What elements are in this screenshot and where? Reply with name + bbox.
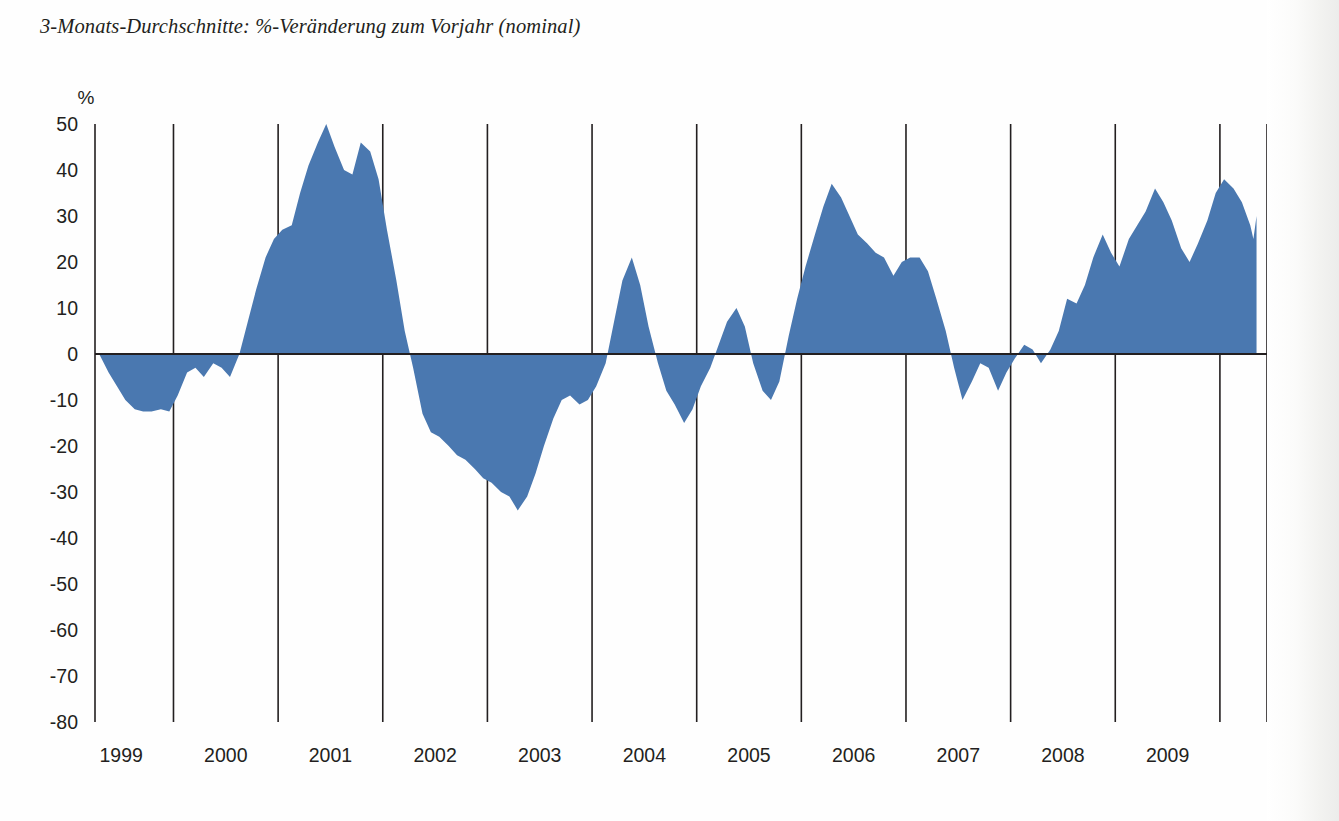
x-tick-label: 2005 (727, 744, 771, 766)
x-tick-label: 2003 (518, 744, 561, 766)
x-tick-label: 2002 (413, 744, 456, 766)
x-tick-label: 2007 (937, 744, 980, 766)
x-tick-label: 2008 (1041, 744, 1084, 766)
y-tick-label: 0 (67, 343, 78, 365)
y-axis-tick-labels: 50403020100-10-20-30-40-50-60-70-80 (50, 113, 78, 733)
data-series-area (99, 124, 1256, 510)
y-tick-label: 10 (56, 297, 78, 319)
x-tick-label: 2004 (623, 744, 667, 766)
x-tick-label: 2000 (204, 744, 248, 766)
y-tick-label: 50 (56, 113, 78, 135)
y-tick-label: -20 (50, 435, 78, 457)
area-chart: 50403020100-10-20-30-40-50-60-70-80 1999… (0, 0, 1339, 821)
chart-page: 3-Monats-Durchschnitte: %-Veränderung zu… (0, 0, 1339, 821)
x-tick-label: 2006 (832, 744, 875, 766)
y-tick-label: -30 (50, 481, 78, 503)
y-tick-label: -40 (50, 527, 78, 549)
y-tick-label: 20 (56, 251, 78, 273)
y-tick-label: -80 (50, 711, 78, 733)
x-tick-label: 1999 (99, 744, 142, 766)
y-tick-label: -60 (50, 619, 78, 641)
y-tick-label: -10 (50, 389, 78, 411)
chart-plot-area: 50403020100-10-20-30-40-50-60-70-80 1999… (0, 0, 1339, 821)
x-tick-label: 2009 (1146, 744, 1189, 766)
y-tick-label: 30 (56, 205, 78, 227)
y-tick-label: -70 (50, 665, 78, 687)
x-axis-tick-labels: 1999200020012002200320042005200620072008… (99, 744, 1189, 766)
y-tick-label: 40 (56, 159, 78, 181)
x-tick-label: 2001 (309, 744, 352, 766)
y-tick-label: -50 (50, 573, 78, 595)
y-axis-unit-label: % (78, 87, 95, 108)
